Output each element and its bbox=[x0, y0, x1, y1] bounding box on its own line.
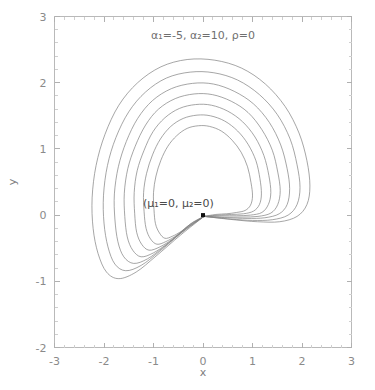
contour-6 bbox=[143, 115, 261, 244]
y-tick-label: 3 bbox=[40, 11, 47, 24]
y-tick-label: -2 bbox=[36, 342, 47, 355]
y-axis-label: y bbox=[6, 178, 19, 185]
x-tick-label: -3 bbox=[49, 355, 60, 368]
contour-plot-figure: -3-2-10123 3210-1-2 α₁=-5, α₂=10, ρ=0 (μ… bbox=[0, 0, 375, 390]
x-tick-label: 2 bbox=[299, 355, 306, 368]
y-tick-label: 0 bbox=[40, 209, 47, 222]
plot-title: α₁=-5, α₂=10, ρ=0 bbox=[151, 29, 255, 42]
mean-annotation: (μ₁=0, μ₂=0) bbox=[143, 197, 214, 210]
x-axis-label: x bbox=[200, 366, 207, 379]
x-tick-label: 3 bbox=[348, 355, 355, 368]
mean-point bbox=[201, 213, 205, 217]
y-tick-label: 1 bbox=[40, 143, 47, 156]
x-tick-label: -1 bbox=[148, 355, 159, 368]
x-axis-ticks: -3-2-10123 bbox=[49, 17, 355, 368]
x-tick-label: 1 bbox=[249, 355, 256, 368]
plot-frame bbox=[54, 16, 352, 348]
mean-point-marker bbox=[201, 213, 205, 217]
contour-7-innermost bbox=[153, 126, 252, 239]
x-tick-label: -2 bbox=[99, 355, 110, 368]
contour-3 bbox=[114, 83, 289, 264]
y-tick-label: 2 bbox=[40, 77, 47, 90]
contour-2 bbox=[103, 72, 300, 271]
contour-curves bbox=[92, 59, 310, 279]
plot-canvas: -3-2-10123 3210-1-2 α₁=-5, α₂=10, ρ=0 (μ… bbox=[0, 0, 375, 390]
y-axis-ticks: 3210-1-2 bbox=[36, 11, 352, 355]
y-tick-label: -1 bbox=[36, 275, 47, 288]
